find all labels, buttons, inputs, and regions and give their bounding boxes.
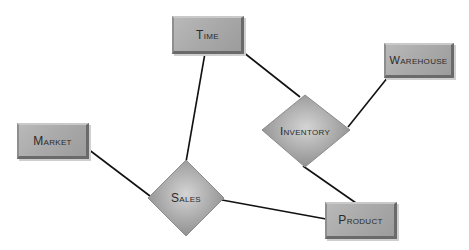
connector-sales-product	[222, 200, 326, 219]
entity-time[interactable]: Time	[172, 16, 244, 54]
entity-warehouse[interactable]: Warehouse	[384, 43, 454, 78]
entity-label: Warehouse	[390, 54, 448, 66]
entity-label: Market	[33, 134, 71, 148]
connector-inventory-product	[303, 166, 356, 203]
connector-time-sales	[186, 53, 205, 162]
relationship-sales-label: Sales	[171, 191, 201, 205]
relationship-inventory-label: Inventory	[280, 125, 330, 137]
entity-label: Product	[338, 213, 382, 227]
entity-market[interactable]: Market	[17, 123, 89, 159]
entity-label: Time	[196, 28, 219, 42]
connector-market-sales	[88, 149, 150, 196]
connector-time-inventory	[243, 52, 300, 97]
connector-warehouse-inventory	[348, 77, 388, 127]
entity-product[interactable]: Product	[325, 202, 397, 239]
